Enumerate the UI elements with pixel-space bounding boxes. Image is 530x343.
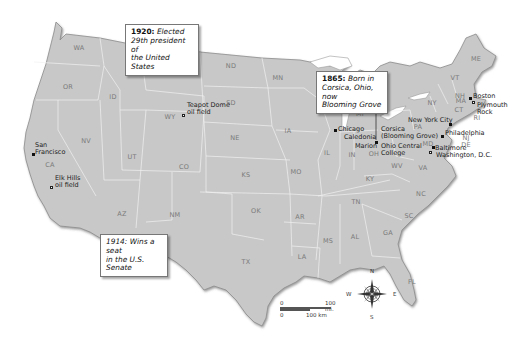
state-label-tx: TX bbox=[242, 258, 251, 266]
state-label-va: VA bbox=[419, 164, 428, 172]
state-label-ky: KY bbox=[366, 175, 374, 183]
state-label-ar: AR bbox=[295, 213, 304, 221]
state-label-ct: CT bbox=[455, 106, 464, 114]
land-mass bbox=[24, 22, 496, 326]
callout-1920-year: 1920: bbox=[131, 27, 155, 36]
marker-marion bbox=[375, 141, 378, 144]
state-label-ut: UT bbox=[127, 153, 136, 161]
marker-teapot-dome bbox=[182, 114, 185, 117]
state-label-il: IL bbox=[324, 149, 330, 157]
marker-plymouth-rock bbox=[472, 101, 475, 104]
state-label-ga: GA bbox=[383, 229, 393, 237]
state-label-ms: MS bbox=[323, 237, 333, 245]
state-label-az: AZ bbox=[117, 210, 126, 218]
state-label-me: ME bbox=[471, 55, 481, 63]
marker-philadelphia bbox=[441, 135, 444, 138]
label-elk-hills: Elk Hillsoil field bbox=[55, 175, 80, 189]
callout-1865-line-2: Corsica, Ohio, now bbox=[322, 83, 373, 101]
callout-1865-year: 1865: bbox=[322, 74, 346, 83]
callout-1865: 1865: Born in Corsica, Ohio, now Bloomin… bbox=[316, 71, 388, 114]
state-label-ma: MA bbox=[456, 97, 466, 105]
scale-bar: 0 100 mi. 0 100 km bbox=[280, 300, 335, 320]
label-teapot-dome: Teapot Domeoil field bbox=[187, 102, 230, 116]
state-label-ca: CA bbox=[45, 161, 54, 169]
marker-boston bbox=[469, 97, 472, 100]
callout-1920-line-1: Elected bbox=[157, 27, 184, 36]
callout-1865-line-1: Born in bbox=[348, 74, 374, 83]
state-label-mo: MO bbox=[290, 168, 301, 176]
label-plymouth-rock: PlymouthRock bbox=[477, 102, 508, 116]
state-label-al: AL bbox=[351, 233, 359, 241]
state-label-vt: VT bbox=[451, 74, 460, 82]
compass-w: W bbox=[346, 291, 351, 297]
marker-washington-dc bbox=[429, 151, 432, 154]
compass-icon bbox=[352, 274, 392, 314]
state-label-or: OR bbox=[63, 83, 73, 91]
callout-1914-line-2: in the U.S. Senate bbox=[106, 255, 144, 273]
marker-chicago bbox=[334, 129, 337, 132]
label-san-francisco: SanFrancisco bbox=[35, 142, 65, 156]
state-label-ne: NE bbox=[230, 134, 239, 142]
label-new-york-city: New York City bbox=[408, 117, 453, 124]
label-caledonia: Caledonia bbox=[344, 134, 376, 141]
label-philadelphia: Philadelphia bbox=[445, 130, 485, 137]
state-label-nv: NV bbox=[81, 137, 91, 145]
state-label-oh: OH bbox=[369, 150, 379, 158]
compass-s: S bbox=[370, 314, 374, 320]
state-label-nm: NM bbox=[170, 211, 181, 219]
state-label-nd: ND bbox=[226, 62, 236, 70]
state-label-ny: NY bbox=[427, 99, 436, 107]
state-label-wy: WY bbox=[165, 113, 176, 121]
callout-1920: 1920: Elected 29th president of the Unit… bbox=[125, 24, 199, 76]
marker-elk-hills bbox=[50, 186, 53, 189]
label-chicago: Chicago bbox=[338, 126, 364, 133]
state-label-ia: IA bbox=[285, 127, 292, 135]
label-marion: Marion bbox=[355, 143, 377, 150]
callout-1920-line-2: 29th president of bbox=[131, 36, 185, 54]
state-label-fl: FL bbox=[408, 278, 416, 286]
state-label-sc: SC bbox=[404, 212, 413, 220]
scale-miles-label: 100 mi. bbox=[325, 300, 336, 312]
scale-km-label: 100 km bbox=[306, 312, 327, 318]
callout-1914: 1914: Wins a seat in the U.S. Senate bbox=[100, 234, 168, 277]
label-boston: Boston bbox=[473, 93, 495, 100]
state-label-ok: OK bbox=[251, 207, 261, 215]
compass-n: N bbox=[370, 268, 374, 274]
state-label-id: ID bbox=[109, 93, 116, 101]
callout-1914-year: 1914: bbox=[106, 237, 127, 246]
compass-rose: N S E W bbox=[352, 274, 392, 314]
scale-km-zero: 0 bbox=[280, 312, 284, 318]
callout-1865-line-3: Blooming Grove bbox=[322, 100, 381, 109]
state-label-la: LA bbox=[298, 253, 307, 261]
state-label-in: IN bbox=[348, 151, 355, 159]
state-label-mn: MN bbox=[273, 74, 284, 82]
state-label-nc: NC bbox=[416, 190, 426, 198]
scale-miles-zero: 0 bbox=[280, 300, 284, 306]
label-washington-dc: Washington, D.C. bbox=[436, 152, 492, 159]
state-label-co: CO bbox=[179, 163, 189, 171]
state-label-ks: KS bbox=[242, 171, 251, 179]
label-corsica: Corsica(Blooming Grove) bbox=[381, 126, 438, 140]
state-label-wa: WA bbox=[74, 44, 85, 52]
label-ohio-central-college: Ohio CentralCollege bbox=[381, 143, 422, 157]
state-label-tn: TN bbox=[351, 198, 360, 206]
callout-1920-line-3: the United States bbox=[131, 53, 170, 71]
state-label-wv: WV bbox=[391, 162, 402, 170]
compass-e: E bbox=[393, 291, 396, 297]
